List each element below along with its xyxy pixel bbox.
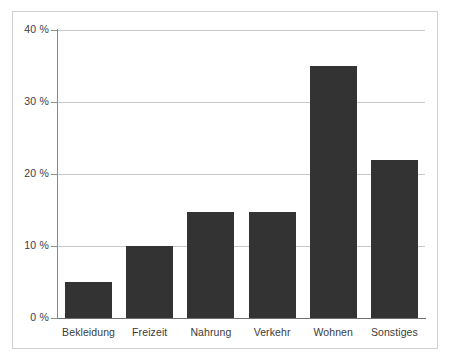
y-axis-tick-label: 0 % xyxy=(3,311,49,323)
x-axis-category-label: Bekleidung xyxy=(58,326,119,338)
y-axis-tick-label: 30 % xyxy=(3,95,49,107)
x-axis-category-label: Verkehr xyxy=(242,326,303,338)
x-axis-category-label: Wohnen xyxy=(303,326,364,338)
bar xyxy=(310,66,357,318)
bar xyxy=(187,212,234,318)
bar xyxy=(126,246,173,318)
y-axis-tick-label: 10 % xyxy=(3,239,49,251)
x-axis-category-label: Freizeit xyxy=(119,326,180,338)
x-axis-line xyxy=(57,318,426,319)
bar xyxy=(65,282,112,318)
bar xyxy=(371,160,418,318)
y-axis-tick xyxy=(51,30,58,31)
bar xyxy=(249,212,296,318)
y-axis-tick xyxy=(51,318,58,319)
bars-layer xyxy=(58,30,425,318)
bar-chart-figure: 0 %10 %20 %30 %40 % BekleidungFreizeitNa… xyxy=(0,0,452,362)
y-axis-tick xyxy=(51,102,58,103)
x-axis-category-label: Nahrung xyxy=(180,326,241,338)
y-axis-tick xyxy=(51,246,58,247)
y-axis-tick-label: 20 % xyxy=(3,167,49,179)
y-axis-tick-label: 40 % xyxy=(3,23,49,35)
y-axis-tick xyxy=(51,174,58,175)
x-axis-category-label: Sonstiges xyxy=(364,326,425,338)
y-axis-labels: 0 %10 %20 %30 %40 % xyxy=(0,0,49,362)
